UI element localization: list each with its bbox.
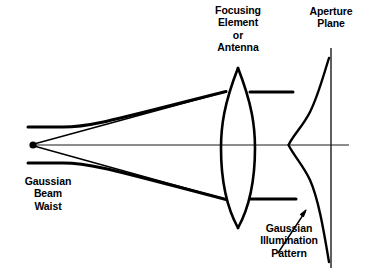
- label-aperture-plane: Aperture Plane: [293, 5, 369, 30]
- upper-diverging-ray: [34, 92, 227, 145]
- beam-waist-dot: [29, 141, 36, 148]
- label-focusing-element: Focusing Element or Antenna: [186, 4, 290, 54]
- gaussian-beam-diagram: Focusing Element or Antenna Aperture Pla…: [0, 0, 369, 275]
- label-gaussian-illumination: Gaussian Illumination Pattern: [243, 222, 335, 259]
- upper-beam-envelope: [28, 92, 226, 128]
- label-gaussian-beam-waist: Gaussian Beam Waist: [0, 175, 96, 212]
